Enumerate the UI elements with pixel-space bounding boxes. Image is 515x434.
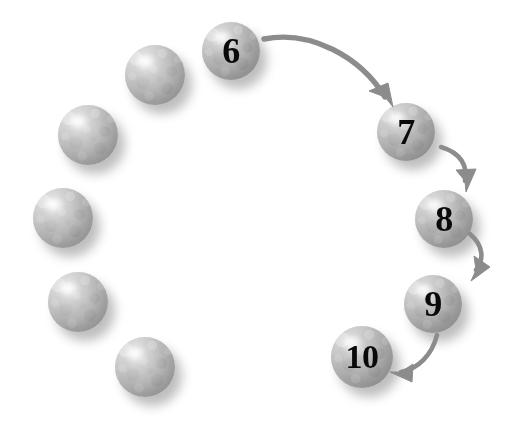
arrow-shaft bbox=[401, 335, 437, 372]
sphere-label: 9 bbox=[404, 275, 462, 333]
sphere-node-9: 9 bbox=[404, 275, 462, 333]
sphere-node-7: 7 bbox=[377, 103, 435, 161]
sphere-texture bbox=[48, 272, 108, 332]
sphere-texture bbox=[33, 188, 93, 248]
arrow-shaft bbox=[264, 37, 385, 97]
arrow-head bbox=[471, 256, 490, 281]
arrow-head bbox=[456, 169, 476, 192]
sphere-label: 10 bbox=[331, 326, 393, 388]
arrow-7-to-8 bbox=[441, 147, 476, 192]
sphere-label: 8 bbox=[415, 190, 473, 248]
sphere-node-blank-1 bbox=[115, 337, 175, 397]
sphere-node-6: 6 bbox=[202, 22, 260, 80]
sphere-texture bbox=[58, 105, 118, 165]
sphere-texture bbox=[125, 45, 185, 105]
sphere-label: 6 bbox=[202, 22, 260, 80]
sphere-node-8: 8 bbox=[415, 190, 473, 248]
sphere-texture bbox=[115, 337, 175, 397]
sphere-node-blank-2 bbox=[48, 272, 108, 332]
arrow-9-to-10 bbox=[390, 335, 437, 382]
sphere-node-blank-4 bbox=[58, 105, 118, 165]
sphere-node-blank-3 bbox=[33, 188, 93, 248]
arrow-8-to-9 bbox=[470, 234, 490, 281]
diagram-canvas: 678910 bbox=[0, 0, 515, 434]
sphere-label: 7 bbox=[377, 103, 435, 161]
sphere-node-10: 10 bbox=[331, 326, 393, 388]
sphere-node-blank-5 bbox=[125, 45, 185, 105]
arrow-head bbox=[390, 364, 413, 382]
arrow-shaft bbox=[441, 147, 466, 181]
arrow-6-to-7 bbox=[264, 37, 393, 107]
